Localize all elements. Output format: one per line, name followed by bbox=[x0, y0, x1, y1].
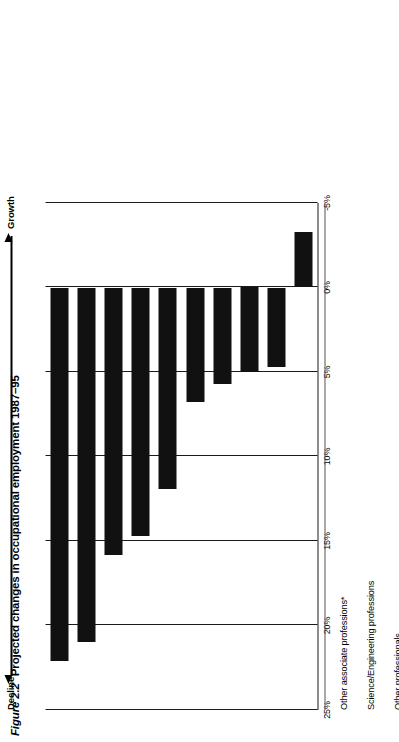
axis-tick-label: 0% bbox=[321, 281, 331, 294]
bar bbox=[158, 288, 176, 489]
gridline-neg5 bbox=[45, 202, 317, 203]
bar bbox=[267, 288, 285, 367]
axis-tick-label: -5% bbox=[321, 195, 331, 210]
plot-area: -5%0%5%10%15%20%25% bbox=[45, 203, 317, 710]
category-label: Other associate professions* bbox=[338, 530, 349, 710]
axis-tick-label: 5% bbox=[321, 366, 331, 379]
category-axis-rule bbox=[324, 203, 325, 710]
growth-label: Growth bbox=[3, 196, 17, 229]
bar bbox=[50, 288, 68, 661]
bar bbox=[294, 232, 312, 288]
axis-tick-label: 15% bbox=[321, 532, 331, 549]
axis-tick-label: 25% bbox=[321, 701, 331, 718]
axis-tick-label: 20% bbox=[321, 617, 331, 634]
bar bbox=[131, 288, 149, 536]
direction-arrow-line bbox=[10, 236, 12, 676]
chart-stage: Figure 2.2Projected changes in occupatio… bbox=[0, 0, 399, 742]
arrow-right-icon bbox=[4, 233, 12, 242]
direction-arrow: Decline Growth bbox=[0, 203, 22, 710]
category-label: Science/Engineering professions bbox=[366, 530, 377, 710]
gridline-25 bbox=[45, 709, 317, 710]
figure-container: Figure 2.2Projected changes in occupatio… bbox=[0, 0, 399, 742]
bar bbox=[213, 288, 231, 384]
decline-label: Decline bbox=[3, 677, 17, 710]
category-labels: Other associate professions*Science/Engi… bbox=[330, 203, 396, 710]
bar bbox=[77, 288, 95, 643]
axis-tick-label: 10% bbox=[321, 448, 331, 465]
category-label: Other professionals bbox=[393, 530, 399, 710]
value-axis-spine bbox=[317, 203, 318, 710]
bar bbox=[104, 288, 122, 555]
bar bbox=[240, 288, 258, 373]
bar bbox=[186, 288, 204, 403]
